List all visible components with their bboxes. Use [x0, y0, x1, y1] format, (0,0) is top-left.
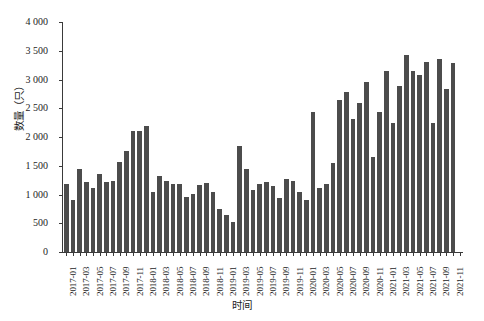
x-axis-tick-mark: [306, 252, 307, 256]
x-axis-tick-mark: [360, 252, 361, 256]
x-axis-tick-mark: [293, 252, 294, 256]
bar: [444, 89, 449, 252]
x-axis-tick-mark: [286, 252, 287, 256]
x-axis-tick-mark: [193, 252, 194, 256]
plot-area: [62, 22, 463, 253]
x-axis-tick-label: 2021-07: [429, 267, 438, 296]
y-axis-tick-label: 4 000: [0, 17, 48, 27]
x-axis-tick-mark: [93, 252, 94, 256]
bar: [417, 75, 422, 252]
x-axis-tick-mark: [420, 252, 421, 256]
x-axis-tick-mark: [313, 252, 314, 256]
bar: [111, 181, 116, 252]
bar: [151, 192, 156, 252]
x-axis-tick-mark: [206, 252, 207, 256]
bar: [357, 103, 362, 253]
y-axis-tick-label: 2 500: [0, 103, 48, 113]
bar: [257, 184, 262, 252]
x-axis-tick-label: 2021-01: [389, 267, 398, 296]
x-axis-tick-mark: [233, 252, 234, 256]
x-axis-tick-label: 2018-05: [176, 267, 185, 296]
x-axis-tick-mark: [126, 252, 127, 256]
x-axis-tick-mark: [240, 252, 241, 256]
x-axis-tick-label: 2021-11: [456, 267, 465, 296]
y-axis-tick-mark: [59, 223, 63, 224]
bar: [364, 82, 369, 252]
bar: [304, 200, 309, 252]
bar: [424, 62, 429, 252]
bar: [311, 112, 316, 252]
bar: [157, 176, 162, 252]
x-axis-tick-mark: [200, 252, 201, 256]
x-axis-tick-label: 2021-05: [416, 267, 425, 296]
x-axis-tick-mark: [326, 252, 327, 256]
bar: [204, 183, 209, 252]
x-axis-tick-mark: [366, 252, 367, 256]
x-axis-tick-mark: [333, 252, 334, 256]
x-axis-tick-label: 2019-03: [242, 267, 251, 296]
bar: [177, 184, 182, 252]
bar: [404, 55, 409, 252]
y-axis-tick-mark: [59, 108, 63, 109]
bar: [251, 190, 256, 252]
bar: [344, 92, 349, 252]
x-axis-tick-mark: [400, 252, 401, 256]
x-axis-tick-mark: [386, 252, 387, 256]
bar: [164, 181, 169, 252]
x-axis-tick-label: 2021-09: [442, 267, 451, 296]
bar: [97, 174, 102, 252]
x-axis-tick-mark: [380, 252, 381, 256]
bar: [331, 163, 336, 252]
x-axis-tick-mark: [440, 252, 441, 256]
y-axis-tick-label: 0: [0, 247, 48, 257]
x-axis-tick-label: 2018-01: [149, 267, 158, 296]
x-axis-tick-mark: [346, 252, 347, 256]
bar: [284, 179, 289, 252]
bar: [104, 182, 109, 252]
bar: [191, 194, 196, 252]
x-axis-title: 时间: [0, 297, 484, 312]
y-axis-tick-mark: [59, 137, 63, 138]
x-axis-tick-label: 2019-07: [269, 267, 278, 296]
x-axis-tick-mark: [246, 252, 247, 256]
x-axis-tick-mark: [433, 252, 434, 256]
x-axis-tick-mark: [166, 252, 167, 256]
bar: [371, 157, 376, 252]
x-axis-tick-label: 2020-01: [309, 267, 318, 296]
bar: [144, 126, 149, 252]
bar: [391, 123, 396, 252]
x-axis-tick-mark: [146, 252, 147, 256]
x-axis-tick-mark: [153, 252, 154, 256]
x-axis-tick-label: 2017-11: [136, 267, 145, 296]
x-axis-tick-mark: [160, 252, 161, 256]
x-axis-tick-mark: [100, 252, 101, 256]
x-axis-tick-mark: [460, 252, 461, 256]
x-axis-tick-labels: 2017-012017-032017-052017-072017-092017-…: [62, 256, 462, 302]
x-axis-tick-mark: [300, 252, 301, 256]
bar: [84, 182, 89, 252]
x-axis-tick-mark: [260, 252, 261, 256]
bar: [384, 71, 389, 252]
x-axis-tick-label: 2018-03: [162, 267, 171, 296]
y-axis-tick-mark: [59, 80, 63, 81]
x-axis-tick-mark: [80, 252, 81, 256]
bar: [324, 184, 329, 252]
y-axis-tick-label: 500: [0, 218, 48, 228]
bar: [337, 100, 342, 252]
x-axis-tick-mark: [320, 252, 321, 256]
x-axis-tick-mark: [280, 252, 281, 256]
x-axis-tick-mark: [340, 252, 341, 256]
y-axis-tick-label: 2 000: [0, 132, 48, 142]
x-axis-tick-mark: [373, 252, 374, 256]
bar: [197, 185, 202, 252]
y-axis-tick-mark: [59, 22, 63, 23]
bar: [224, 215, 229, 252]
x-axis-tick-mark: [253, 252, 254, 256]
x-axis-tick-mark: [453, 252, 454, 256]
x-axis-tick-mark: [406, 252, 407, 256]
x-axis-tick-label: 2020-11: [376, 267, 385, 296]
bar: [317, 188, 322, 252]
bar: [77, 169, 82, 252]
figure-container: 数量（只） 05001 0001 5002 0002 5003 0003 500…: [0, 0, 484, 321]
bar: [64, 184, 69, 252]
